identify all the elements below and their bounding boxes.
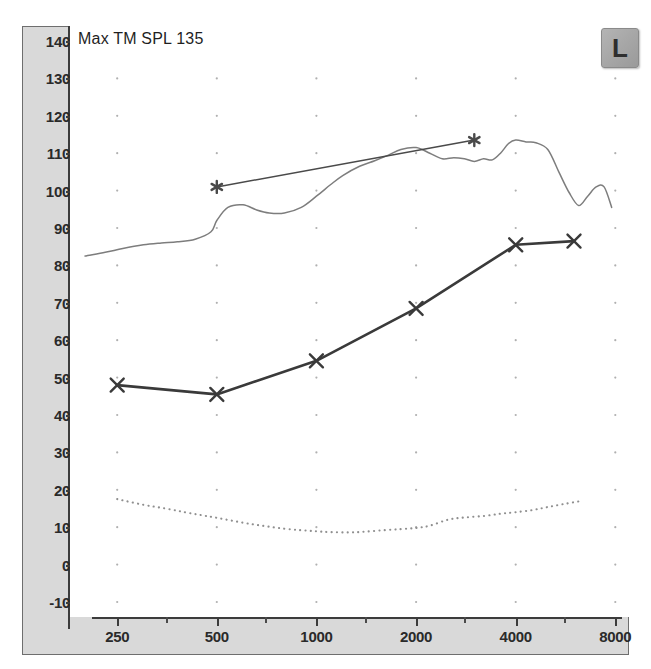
grid-dot: [116, 339, 118, 341]
grid-dot: [515, 190, 517, 192]
series-line-thin: [217, 140, 475, 187]
grid-dot: [515, 489, 517, 491]
x-tick-major: [615, 617, 617, 626]
series-1: [212, 134, 480, 193]
x-tick-minor: [464, 617, 466, 623]
grid-dot: [415, 489, 417, 491]
grid-dot: [614, 190, 616, 192]
grid-dot: [216, 601, 218, 603]
y-tick-label: 20: [28, 482, 70, 497]
x-tick-major: [516, 617, 518, 626]
grid-dot: [315, 115, 317, 117]
y-tick-label: 90: [28, 221, 70, 236]
grid-dot: [216, 339, 218, 341]
y-tick-label: 30: [28, 445, 70, 460]
grid-dot: [216, 414, 218, 416]
grid-dot: [515, 414, 517, 416]
grid-dot: [515, 302, 517, 304]
grid-dot: [614, 564, 616, 566]
grid-dot: [415, 339, 417, 341]
grid-dot: [315, 451, 317, 453]
grid-dot: [415, 414, 417, 416]
grid-dot: [116, 564, 118, 566]
grid-dot: [315, 152, 317, 154]
grid-dot: [515, 451, 517, 453]
chart-title: Max TM SPL 135: [78, 30, 204, 48]
grid-dot: [614, 601, 616, 603]
grid-dot: [515, 601, 517, 603]
grid-dot: [216, 377, 218, 379]
grid-dot: [614, 377, 616, 379]
y-tick-label: 120: [28, 108, 70, 123]
grid-dot: [116, 414, 118, 416]
grid-dot: [614, 339, 616, 341]
grid-dot: [415, 302, 417, 304]
x-tick-minor: [365, 617, 367, 623]
grid-dot: [216, 264, 218, 266]
grid-dot: [515, 339, 517, 341]
grid-dot: [415, 227, 417, 229]
x-tick-label: 4000: [500, 629, 532, 644]
grid-dot: [216, 489, 218, 491]
grid-dot: [515, 77, 517, 79]
series-line-thick: [117, 241, 574, 394]
grid-dot: [614, 414, 616, 416]
grid-dot: [216, 115, 218, 117]
grid-dot: [415, 601, 417, 603]
x-tick-label: 250: [105, 629, 129, 644]
grid-dot: [315, 302, 317, 304]
grid-dot: [116, 152, 118, 154]
grid-dot: [415, 115, 417, 117]
grid-dot: [614, 489, 616, 491]
grid-dot: [216, 302, 218, 304]
grid-dot: [415, 451, 417, 453]
grid-dot: [415, 77, 417, 79]
y-tick-label: 40: [28, 408, 70, 423]
grid-dot: [315, 489, 317, 491]
grid-dot: [614, 302, 616, 304]
x-tick-label: 500: [205, 629, 229, 644]
grid-dots: [116, 77, 616, 603]
grid-dot: [315, 339, 317, 341]
grid-dot: [116, 377, 118, 379]
y-tick-label: 50: [28, 370, 70, 385]
grid-dot: [614, 152, 616, 154]
plot-area: [70, 26, 629, 617]
x-tick-major: [217, 617, 219, 626]
grid-dot: [116, 302, 118, 304]
x-axis-tick-group: 2505001000200040008000: [70, 617, 629, 655]
grid-dot: [315, 601, 317, 603]
grid-dot: [515, 227, 517, 229]
grid-dot: [614, 526, 616, 528]
series-2: [111, 235, 581, 401]
x-tick-label: 2000: [400, 629, 432, 644]
y-tick-label: 140: [28, 34, 70, 49]
grid-dot: [315, 77, 317, 79]
x-tick-minor: [564, 617, 566, 623]
grid-dot: [315, 526, 317, 528]
left-ear-badge[interactable]: L: [601, 28, 639, 68]
grid-dot: [116, 489, 118, 491]
grid-dot: [515, 377, 517, 379]
grid-dot: [315, 227, 317, 229]
grid-dot: [415, 377, 417, 379]
grid-dot: [116, 190, 118, 192]
grid-dot: [515, 115, 517, 117]
grid-dot: [216, 526, 218, 528]
x-axis-line: [92, 617, 622, 619]
grid-dot: [116, 601, 118, 603]
grid-dot: [116, 227, 118, 229]
y-tick-label: 130: [28, 71, 70, 86]
grid-dot: [116, 451, 118, 453]
x-tick-minor: [265, 617, 267, 623]
grid-dot: [216, 564, 218, 566]
y-tick-label: 110: [28, 146, 70, 161]
x-tick-major: [416, 617, 418, 626]
y-tick-label: 70: [28, 295, 70, 310]
y-tick-label: 80: [28, 258, 70, 273]
x-tick-minor: [166, 617, 168, 623]
grid-dot: [515, 264, 517, 266]
x-tick-major: [117, 617, 119, 626]
grid-dot: [315, 377, 317, 379]
y-tick-label: 60: [28, 333, 70, 348]
